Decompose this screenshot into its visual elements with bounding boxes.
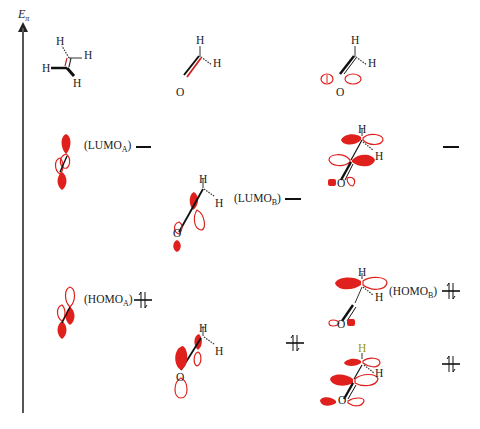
homo-a-occupied-level	[133, 291, 153, 309]
atom-h: H	[375, 367, 383, 379]
homo-a-prefix: (HOMO	[84, 293, 123, 305]
lower-right-occupied-level	[441, 355, 461, 373]
atom-o: O	[176, 371, 184, 383]
lumo-a-energy-level	[136, 146, 151, 148]
atom-o: O	[336, 86, 344, 98]
homo-a-orbital	[50, 283, 80, 353]
atom-h: H	[375, 291, 383, 303]
atom-h: H	[56, 35, 64, 47]
homo-b-prefix: (HOMO	[389, 285, 428, 297]
atom-o: O	[338, 394, 346, 406]
atom-h: H	[215, 197, 223, 209]
lumo-b-label: (LUMOB)	[234, 192, 281, 207]
lumo-a-orbital	[50, 128, 80, 198]
atom-h: H	[73, 77, 81, 89]
atom-h: H	[358, 123, 366, 135]
atom-o: O	[173, 227, 181, 239]
atom-o: O	[176, 86, 184, 98]
energy-axis-label: Eπ	[18, 7, 29, 23]
lumo-b-prefix: (LUMO	[234, 192, 272, 204]
homo-b-label: (HOMOB)	[389, 285, 437, 300]
lumo-a-label: (LUMOA)	[84, 139, 131, 154]
upper-right-energy-level	[443, 146, 459, 148]
atom-o: O	[337, 177, 345, 189]
atom-h: H	[215, 345, 223, 357]
atom-h: H	[375, 150, 383, 162]
atom-h: H	[196, 34, 204, 46]
homo-a-label: (HOMOA)	[84, 293, 133, 308]
homo-b-occupied-level	[441, 282, 461, 300]
lower-right-orbital	[318, 345, 398, 420]
atom-h: H	[42, 62, 50, 74]
lumo-a-prefix: (LUMO	[84, 139, 122, 151]
atom-h: H	[368, 57, 376, 69]
atom-h: H	[84, 49, 92, 61]
atom-h: H	[213, 57, 221, 69]
atom-h: H	[199, 173, 207, 185]
lower-middle-occupied-level	[285, 334, 305, 352]
atom-o: O	[337, 318, 345, 330]
energy-axis	[22, 28, 24, 413]
formaldehyde-lonepair-structure	[320, 40, 400, 100]
lumo-b-energy-level	[285, 198, 301, 200]
lumo-a-suffix: )	[127, 139, 131, 151]
lumo-b-suffix: )	[277, 192, 281, 204]
atom-h: H	[358, 266, 366, 278]
atom-h-highlighted: H	[358, 342, 366, 354]
homo-b-suffix: )	[433, 285, 437, 297]
atom-h: H	[351, 34, 359, 46]
atom-h: H	[199, 322, 207, 334]
axis-label-sub: π	[25, 14, 29, 23]
